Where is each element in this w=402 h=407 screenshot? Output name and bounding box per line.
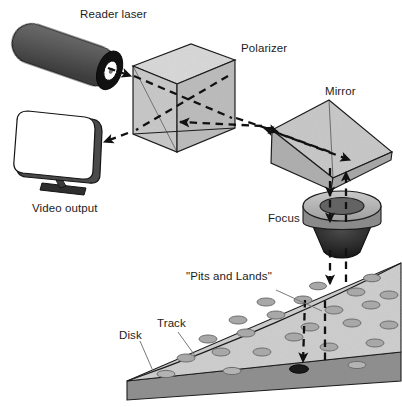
label-focus: Focus	[268, 212, 300, 224]
label-polarizer: Polarizer	[241, 42, 287, 54]
label-video-output: Video output	[32, 202, 98, 214]
label-reader-laser: Reader laser	[80, 8, 147, 20]
label-mirror: Mirror	[325, 85, 356, 97]
mirror-prism	[271, 100, 392, 190]
label-disk: Disk	[119, 329, 142, 341]
label-track: Track	[157, 317, 186, 329]
disk	[127, 263, 401, 400]
label-pits-and-lands: "Pits and Lands"	[186, 270, 272, 282]
active-pit	[290, 365, 309, 373]
monitor-screen	[14, 111, 95, 179]
reader-laser	[7, 18, 128, 93]
video-output-monitor	[14, 111, 102, 195]
beam-polarizer-to-video	[104, 133, 128, 142]
optical-disc-diagram: Reader laser Polarizer Mirror Focus Vide…	[0, 0, 402, 407]
leader-disk	[140, 341, 153, 371]
lens-aperture	[320, 198, 364, 215]
leader-track	[178, 332, 196, 357]
focus-lens	[303, 191, 381, 258]
